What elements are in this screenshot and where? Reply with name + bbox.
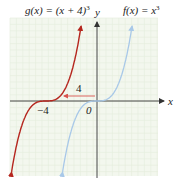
y-axis-label: y bbox=[94, 6, 100, 18]
g-function-label: g(x) = (x + 4)3 bbox=[25, 4, 90, 17]
tick-label-neg4: −4 bbox=[37, 104, 49, 116]
shift-amount-label: 4 bbox=[76, 82, 82, 94]
cubic-translation-graph: 4 −4 0 x y g(x) = (x + 4)3 f(x) = x3 bbox=[0, 0, 179, 183]
f-function-label: f(x) = x3 bbox=[123, 4, 160, 17]
x-axis-label: x bbox=[167, 95, 173, 107]
origin-label: 0 bbox=[86, 104, 92, 116]
